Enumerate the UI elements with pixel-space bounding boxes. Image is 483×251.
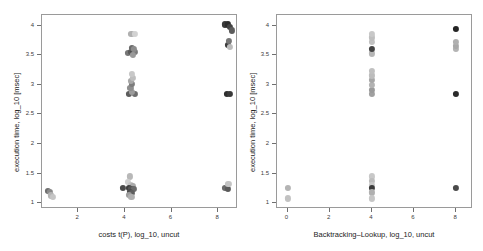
- y-tick-label: 1: [15, 199, 34, 205]
- x-tick-label: 2: [327, 214, 330, 220]
- x-tick: [217, 208, 218, 212]
- x-tick: [455, 208, 456, 212]
- y-tick: [37, 173, 41, 174]
- y-axis-title-left: execution time, log_10 [msec]: [12, 73, 21, 172]
- y-tick: [272, 54, 276, 55]
- y-tick-label: 2: [15, 140, 34, 146]
- x-axis-title-left: costs t(P), log_10, uncut: [99, 230, 180, 239]
- y-tick: [272, 25, 276, 26]
- y-tick-label: 3: [250, 81, 269, 87]
- x-axis-title-right: Backtracking–Lookup, log_10, uncut: [314, 230, 435, 239]
- y-tick-label: 2: [250, 140, 269, 146]
- scatter-plot-figure: costs t(P), log_10, uncut execution time…: [0, 0, 483, 251]
- x-tick-label: 4: [122, 214, 125, 220]
- y-tick-label: 4: [250, 22, 269, 28]
- x-tick: [287, 208, 288, 212]
- y-tick: [37, 25, 41, 26]
- data-point: [128, 193, 134, 199]
- data-point: [284, 195, 290, 201]
- x-tick-label: 4: [369, 214, 372, 220]
- y-tick-label: 2.5: [250, 110, 269, 116]
- x-tick-label: 2: [75, 214, 78, 220]
- y-tick: [37, 113, 41, 114]
- data-point: [132, 31, 138, 37]
- data-point: [453, 26, 459, 32]
- data-point: [227, 91, 233, 97]
- data-point: [227, 44, 233, 50]
- y-tick-label: 2.5: [15, 110, 34, 116]
- x-tick-label: 8: [215, 214, 218, 220]
- data-point: [130, 52, 136, 58]
- y-tick-label: 3: [15, 81, 34, 87]
- plot-area-left: [42, 15, 236, 207]
- y-tick: [37, 54, 41, 55]
- data-point: [369, 195, 375, 201]
- data-point: [229, 27, 235, 33]
- data-point: [49, 194, 55, 200]
- x-tick: [124, 208, 125, 212]
- x-tick-label: 8: [453, 214, 456, 220]
- y-tick: [37, 202, 41, 203]
- y-tick: [272, 202, 276, 203]
- y-tick-label: 4: [15, 22, 34, 28]
- y-tick: [272, 173, 276, 174]
- data-point: [225, 181, 231, 187]
- y-tick-label: 1.5: [250, 170, 269, 176]
- y-tick-label: 3.5: [15, 51, 34, 57]
- x-tick-label: 0: [285, 214, 288, 220]
- data-point: [284, 185, 290, 191]
- x-tick: [77, 208, 78, 212]
- x-tick: [413, 208, 414, 212]
- y-tick: [272, 113, 276, 114]
- panel-right: Backtracking–Lookup, log_10, uncut execu…: [242, 0, 483, 251]
- y-tick: [37, 143, 41, 144]
- panel-left: costs t(P), log_10, uncut execution time…: [0, 0, 242, 251]
- y-tick: [272, 143, 276, 144]
- x-tick: [329, 208, 330, 212]
- x-tick: [371, 208, 372, 212]
- y-tick-label: 1.5: [15, 170, 34, 176]
- y-tick-label: 3.5: [250, 51, 269, 57]
- y-tick: [272, 84, 276, 85]
- plot-frame-right: [276, 14, 472, 208]
- data-point: [453, 91, 459, 97]
- x-tick-label: 6: [411, 214, 414, 220]
- plot-frame-left: [41, 14, 237, 208]
- data-point: [453, 185, 459, 191]
- plot-area-right: [277, 15, 471, 207]
- x-tick: [171, 208, 172, 212]
- y-axis-title-right: execution time, log_10 [msec]: [248, 73, 257, 172]
- y-tick: [37, 84, 41, 85]
- x-tick-label: 6: [169, 214, 172, 220]
- y-tick-label: 1: [250, 199, 269, 205]
